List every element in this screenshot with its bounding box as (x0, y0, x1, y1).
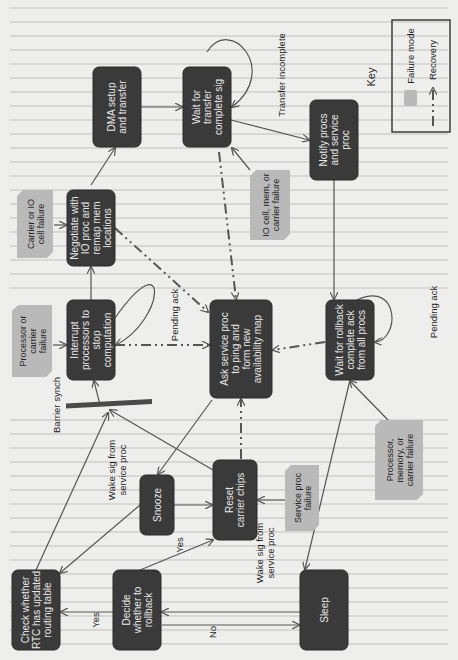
node-reset: Resetcarrier chips (213, 460, 257, 540)
node-label: Processor,memory, orcarrier failure (385, 434, 415, 487)
book-page: DMA setupand transferWait fortransfercom… (0, 0, 458, 660)
edge-negotiate-to-dma (91, 148, 115, 185)
edge-check-rtc-to-barrier (36, 413, 108, 570)
node-label: Sleep (319, 597, 330, 623)
node-label: Check whetherRTC has updatedrouting tabl… (20, 571, 53, 649)
node-dma: DMA setupand transfer (93, 67, 141, 147)
label-yes-check-rtc: Yes (90, 612, 101, 628)
node-label: Snooze (152, 488, 163, 522)
node-ask-service: Ask service procto ping andform newavail… (210, 300, 272, 398)
edge-snooze-to-check-rtc (60, 505, 140, 573)
key-failure-swatch (404, 90, 417, 106)
node-sleep: Sleep (300, 570, 348, 650)
edge-wait-rollback-to-ask-service (273, 342, 325, 350)
node-check-rtc: Check whetherRTC has updatedrouting tabl… (12, 570, 60, 650)
node-notify: Notify procsand serviceproc (310, 100, 358, 180)
node-interrupt: Interruptprocessors tostopcomputation (67, 300, 115, 380)
key-recovery-label: Recovery (427, 40, 438, 80)
label-wake-sig-sleep: Wake sig fromservice proc (254, 523, 276, 583)
label-barrier-synch: Barrier synch (51, 377, 62, 433)
nodes: DMA setupand transferWait fortransfercom… (12, 67, 423, 650)
key-legend: KeyFailure modeRecovery (365, 20, 450, 132)
edge-ask-to-snooze (158, 400, 212, 474)
edge-io-mem-failure (232, 148, 250, 170)
edge-wait-transfer-to-notify (231, 120, 309, 140)
node-negotiate: Negotiate withIO proc andremap memlocati… (67, 190, 115, 266)
key-title: Key (365, 67, 377, 86)
failure-mode-io-mem: IO cell, mem, orcarrier failure (250, 170, 290, 240)
node-decide: Decidewhether torollback (113, 570, 161, 650)
key-failure-label: Failure mode (405, 28, 416, 83)
label-pending-ack-interrupt: Pending ack (169, 289, 180, 342)
failure-mode-service-proc: Service procfailure (285, 465, 319, 531)
key-box (392, 20, 450, 132)
failure-mode-proc-carrier: Processor orcarrierfailure (12, 305, 52, 377)
barrier-synch-bar (66, 399, 152, 409)
edge-interrupt-pending-loop (115, 285, 155, 345)
node-wait-rollback: Wait for rollbackcomplete ackfrom all pr… (326, 300, 374, 380)
node-label: Wait for rollbackcomplete ackfrom all pr… (334, 303, 367, 375)
edge-proc-mem-carrier-failure (350, 381, 388, 420)
node-label: Carrier or IOcell failure (26, 199, 46, 249)
label-transfer-incomplete: Transfer incomplete (276, 33, 287, 117)
node-snooze: Snooze (140, 475, 174, 535)
node-wait-transfer: Wait fortransfercomplete sig (183, 67, 231, 147)
label-wake-sig-snooze: Wake sig fromservice proc (106, 440, 128, 500)
recovery-flow-diagram: DMA setupand transferWait fortransfercom… (0, 0, 458, 660)
node-label: DMA setupand transfer (106, 80, 128, 134)
failure-mode-carrier-io: Carrier or IOcell failure (17, 190, 53, 258)
label-no: No (207, 626, 218, 638)
label-pending-ack-rollback: Pending ack (428, 286, 439, 339)
edge-barrier-to-interrupt (94, 381, 100, 405)
edge-wait-transfer-to-ask-service (219, 152, 236, 299)
node-label: IO cell, mem, orcarrier failure (261, 173, 281, 237)
failure-mode-proc-mem-carrier: Processor,memory, orcarrier failure (375, 420, 423, 500)
label-yes-reset: Yes (174, 537, 185, 553)
